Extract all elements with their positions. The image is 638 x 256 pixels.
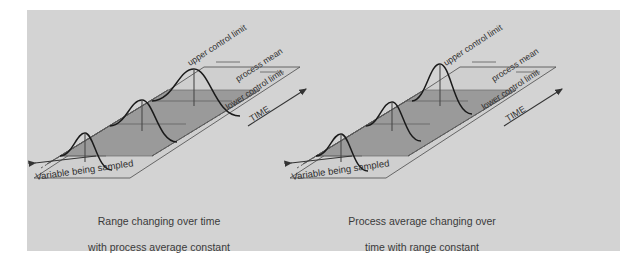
spc-figure: Variable being sampled TIME upper contro… <box>0 0 638 256</box>
panel-left: Variable being sampled TIME upper contro… <box>34 22 306 182</box>
caption-right: Process average changing over time with … <box>292 202 552 256</box>
caption-left-line1: Range changing over time <box>34 215 284 228</box>
panel-right: Variable being sampled TIME upper contro… <box>290 22 562 182</box>
caption-right-line2: time with range constant <box>292 241 552 254</box>
upper-control-limit-label-left: upper control limit <box>186 22 249 68</box>
caption-left-line2: with process average constant <box>34 241 284 254</box>
caption-right-line1: Process average changing over <box>292 215 552 228</box>
time-axis-label-left: TIME <box>248 104 272 124</box>
time-axis-label-right: TIME <box>504 104 528 124</box>
upper-control-limit-label-right: upper control limit <box>442 22 505 68</box>
caption-left: Range changing over time with process av… <box>34 202 284 256</box>
